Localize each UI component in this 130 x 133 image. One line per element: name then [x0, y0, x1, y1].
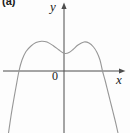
origin-label: 0 [52, 70, 58, 83]
function-curve [9, 41, 119, 133]
y-axis-label: y [50, 0, 56, 13]
figure-panel: (a) y x 0 [0, 0, 130, 133]
y-axis-arrow-icon [61, 3, 66, 10]
graph-canvas [0, 0, 130, 133]
x-axis-label: x [116, 73, 122, 86]
figure-label: (a) [2, 0, 15, 8]
